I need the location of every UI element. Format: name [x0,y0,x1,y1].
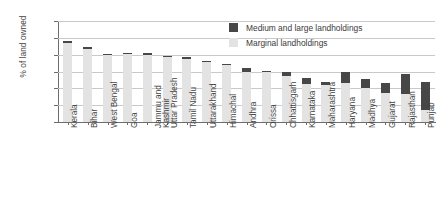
x-axis-tick-icon [346,122,347,125]
chart-container: % of land owned 020406080100120 KeralaBi… [0,0,443,211]
x-axis-tick-icon [286,122,287,125]
legend-swatch-marginal-icon [229,38,238,47]
legend-item-marginal: Marginal landholdings [229,36,362,49]
bar-segment-medium-large[interactable] [103,54,112,55]
x-axis-tick-icon [147,122,148,125]
bar-group[interactable] [143,21,152,122]
bar-segment-marginal[interactable] [143,55,152,122]
x-axis-tick-label: Bihar [91,109,99,128]
x-axis-tick-label: Andhra [250,102,258,128]
bar-segment-medium-large[interactable] [302,78,311,84]
bar-segment-medium-large[interactable] [143,53,152,54]
bar-segment-medium-large[interactable] [381,83,390,92]
bar-segment-medium-large[interactable] [202,61,211,62]
bar-segment-medium-large[interactable] [222,64,231,65]
bar-group[interactable] [123,21,132,122]
x-axis-tick-label: Himachal [230,94,238,128]
x-axis-tick-label: Goa [131,113,139,128]
bar-segment-medium-large[interactable] [361,79,370,87]
x-axis-tick-label: Maharashtra [329,82,337,128]
x-axis-tick-label: Tamil Nadu [190,87,198,128]
bar-segment-medium-large[interactable] [242,68,251,71]
bar-segment-medium-large[interactable] [63,41,72,43]
y-axis-tick-icon [54,122,58,123]
bar-segment-medium-large[interactable] [282,72,291,75]
x-axis-tick-label: Punjab [428,103,436,129]
legend-label-marginal: Marginal landholdings [246,38,327,48]
chart-legend: Medium and large landholdings Marginal l… [229,21,362,51]
x-axis-tick-icon [68,122,69,125]
x-axis-tick-label: Karnataka [309,91,317,128]
x-axis-tick-icon [227,122,228,125]
x-axis-tick-icon [88,122,89,125]
x-axis-tick-label: Jammu andKashmir [155,85,171,128]
bar-segment-medium-large[interactable] [341,72,350,84]
x-axis-tick-label: Haryana [349,97,357,128]
x-axis-tick-icon [108,122,109,125]
bar-segment-medium-large[interactable] [123,53,132,54]
x-axis-tick-label: West Bengal [111,82,119,128]
legend-item-medium-large: Medium and large landholdings [229,21,362,34]
x-axis-tick-icon [366,122,367,125]
bar-group[interactable] [83,21,92,122]
legend-label-medium-large: Medium and large landholdings [246,23,362,33]
bar-segment-medium-large[interactable] [262,71,271,72]
y-axis-title: % of land owned [19,0,28,97]
x-axis-tick-icon [127,122,128,125]
x-axis-tick-icon [425,122,426,125]
x-axis-tick-label: Madhya [369,99,377,128]
bar-segment-medium-large[interactable] [83,47,92,49]
x-axis-tick-icon [326,122,327,125]
x-axis-tick-label: Rajasthan [409,91,417,128]
x-axis-tick-label: Uttarakhand [210,83,218,128]
bar-segment-medium-large[interactable] [163,56,172,57]
x-axis-tick-icon [306,122,307,125]
x-axis-tick-label: Kerala [71,104,79,128]
x-axis-tick-icon [207,122,208,125]
x-axis-tick-icon [405,122,406,125]
x-axis-tick-label: Gujarat [389,101,397,128]
x-axis-tick-label: Orissa [270,104,278,128]
bar-segment-medium-large[interactable] [182,57,191,59]
x-axis-tick-icon [385,122,386,125]
x-axis-tick-icon [187,122,188,125]
x-axis-tick-label: Uttar Pradesh [171,77,179,128]
x-axis-tick-label: Chhattisgarh [290,82,298,128]
x-axis-tick-icon [247,122,248,125]
x-axis-tick-icon [266,122,267,125]
legend-swatch-medium-large-icon [229,23,238,32]
